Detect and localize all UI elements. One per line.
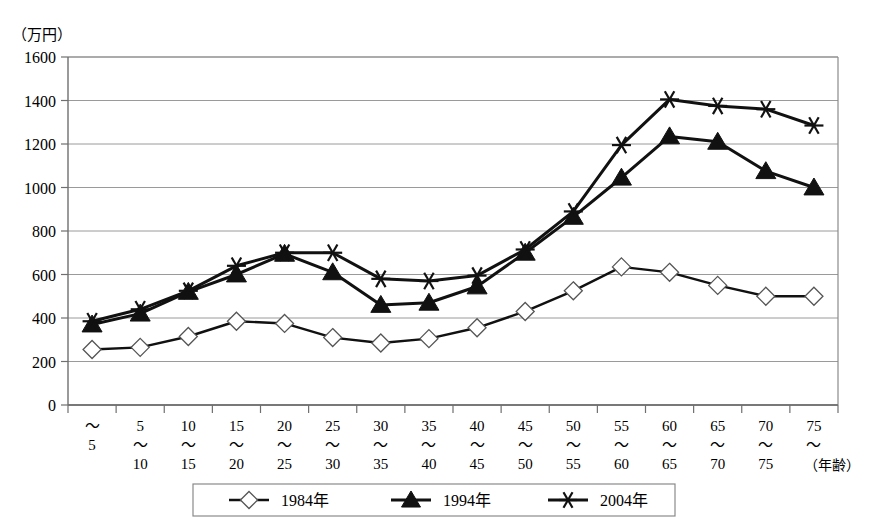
y-tick-label-400: 400 bbox=[32, 310, 56, 327]
x-tick-label-bottom-6: 35 bbox=[373, 456, 388, 472]
x-axis-title: （年齢） bbox=[804, 458, 860, 473]
x-tick-label-group-6: 30〜35 bbox=[373, 418, 388, 472]
y-tick-label-1000: 1000 bbox=[24, 180, 56, 197]
x-tick-label-sep-3: 〜 bbox=[229, 437, 244, 453]
x-tick-label-sep-12: 〜 bbox=[662, 437, 677, 453]
x-tick-label-sep-0: 〜 bbox=[85, 418, 100, 434]
x-tick-label-top-4: 20 bbox=[277, 418, 292, 434]
y-tick-label-0: 0 bbox=[48, 397, 56, 414]
chart-canvas: （万円） 02004006008001000120014001600 〜55〜1… bbox=[0, 0, 869, 525]
legend-label-2004年: 2004年 bbox=[600, 492, 648, 509]
x-tick-label-bottom-11: 60 bbox=[614, 456, 629, 472]
x-tick-label-group-11: 55〜60 bbox=[614, 418, 629, 472]
x-tick-label-top-1: 5 bbox=[136, 418, 144, 434]
x-tick-label-bottom-3: 20 bbox=[229, 456, 244, 472]
x-tick-label-top-7: 35 bbox=[421, 418, 436, 434]
x-tick-label-top-12: 60 bbox=[662, 418, 677, 434]
x-tick-label-sep-8: 〜 bbox=[470, 437, 485, 453]
x-tick-label-sep-10: 〜 bbox=[566, 437, 581, 453]
x-tick-label-top-14: 70 bbox=[758, 418, 773, 434]
x-tick-label-sep-11: 〜 bbox=[614, 437, 629, 453]
x-tick-label-bottom-5: 30 bbox=[325, 456, 340, 472]
x-tick-label-bottom-14: 75 bbox=[758, 456, 773, 472]
x-tick-label-top-6: 30 bbox=[373, 418, 388, 434]
x-tick-label-bottom-8: 45 bbox=[470, 456, 485, 472]
x-tick-label-bottom-1: 10 bbox=[133, 456, 148, 472]
x-tick-label-group-13: 65〜70 bbox=[710, 418, 725, 472]
x-tick-label-group-14: 70〜75 bbox=[758, 418, 773, 472]
x-tick-label-group-7: 35〜40 bbox=[421, 418, 436, 472]
x-tick-label-top-9: 45 bbox=[518, 418, 533, 434]
x-tick-label-group-10: 50〜55 bbox=[566, 418, 581, 472]
x-tick-label-top-11: 55 bbox=[614, 418, 629, 434]
y-tick-label-200: 200 bbox=[32, 354, 56, 371]
y-tick-label-1600: 1600 bbox=[24, 49, 56, 66]
y-axis-unit-label: （万円） bbox=[12, 27, 72, 43]
x-tick-label-sep-13: 〜 bbox=[710, 437, 725, 453]
x-tick-label-group-5: 25〜30 bbox=[325, 418, 340, 472]
x-tick-label-sep-7: 〜 bbox=[421, 437, 436, 453]
y-tick-label-1200: 1200 bbox=[24, 136, 56, 153]
legend-label-1994年: 1994年 bbox=[443, 492, 491, 509]
x-tick-label-group-2: 10〜15 bbox=[181, 418, 196, 472]
x-tick-label-sep-4: 〜 bbox=[277, 437, 292, 453]
x-tick-label-bottom-2: 15 bbox=[181, 456, 196, 472]
x-tick-label-sep-6: 〜 bbox=[373, 437, 388, 453]
x-tick-label-top-2: 10 bbox=[181, 418, 196, 434]
x-tick-label-bottom-10: 55 bbox=[566, 456, 581, 472]
x-tick-label-top-10: 50 bbox=[566, 418, 581, 434]
x-tick-label-bottom-0: 5 bbox=[88, 437, 96, 453]
x-tick-label-top-5: 25 bbox=[325, 418, 340, 434]
x-tick-label-top-13: 65 bbox=[710, 418, 725, 434]
x-tick-label-top-15: 75 bbox=[806, 418, 821, 434]
x-tick-label-sep-5: 〜 bbox=[325, 437, 340, 453]
x-tick-label-top-3: 15 bbox=[229, 418, 244, 434]
x-tick-label-group-9: 45〜50 bbox=[518, 418, 533, 472]
y-tick-label-600: 600 bbox=[32, 267, 56, 284]
x-tick-label-sep-2: 〜 bbox=[181, 437, 196, 453]
x-tick-label-bottom-4: 25 bbox=[277, 456, 292, 472]
x-tick-label-bottom-13: 70 bbox=[710, 456, 725, 472]
x-tick-label-bottom-7: 40 bbox=[421, 456, 436, 472]
line-chart: （万円） 02004006008001000120014001600 〜55〜1… bbox=[0, 0, 869, 525]
x-tick-label-group-4: 20〜25 bbox=[277, 418, 292, 472]
y-tick-label-1400: 1400 bbox=[24, 93, 56, 110]
x-tick-label-group-8: 40〜45 bbox=[470, 418, 485, 472]
x-tick-label-bottom-9: 50 bbox=[518, 456, 533, 472]
x-tick-label-sep-15: 〜 bbox=[806, 437, 821, 453]
x-tick-label-group-3: 15〜20 bbox=[229, 418, 244, 472]
x-tick-label-sep-9: 〜 bbox=[518, 437, 533, 453]
y-tick-label-800: 800 bbox=[32, 223, 56, 240]
chart-legend: 1984年1994年2004年 bbox=[193, 484, 675, 516]
x-tick-label-sep-1: 〜 bbox=[133, 437, 148, 453]
x-tick-label-bottom-12: 65 bbox=[662, 456, 677, 472]
x-tick-label-top-8: 40 bbox=[470, 418, 485, 434]
x-tick-label-group-12: 60〜65 bbox=[662, 418, 677, 472]
x-tick-label-sep-14: 〜 bbox=[758, 437, 773, 453]
legend-label-1984年: 1984年 bbox=[281, 492, 329, 509]
